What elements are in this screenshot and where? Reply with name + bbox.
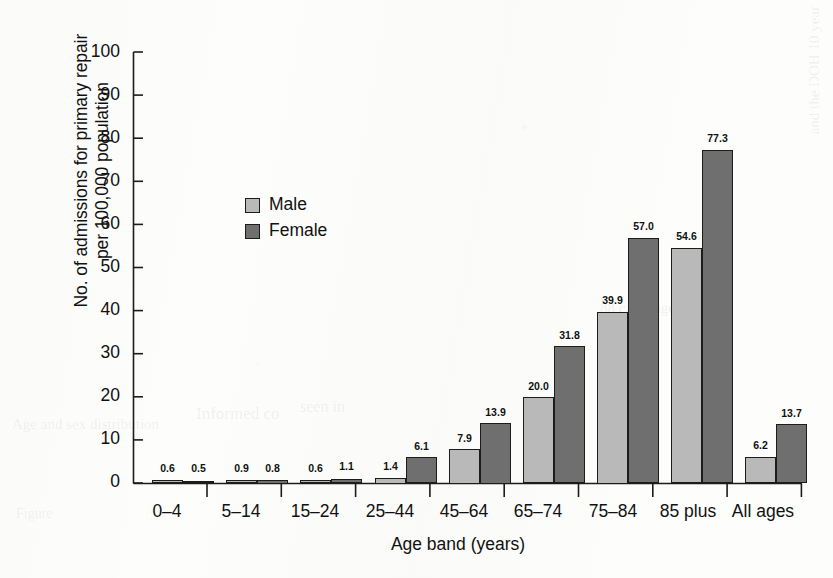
bar-value-male-all-ages: 6.2 [733,440,788,451]
legend-item-male: Male [245,192,327,218]
bar-value-male-75-84: 39.9 [585,295,640,306]
bar-value-female-45-64: 13.9 [468,407,523,418]
x-tick-label-all-ages: All ages [724,503,802,521]
y-tick-label: 100 [62,43,120,61]
bar-value-female-85-plus: 77.3 [690,133,745,144]
bar-male-85-plus [671,248,702,484]
bar-value-female-65-74: 31.8 [542,330,597,341]
bar-chart: No. of admissions for primary repair per… [0,0,833,578]
y-tick-label: 50 [62,258,120,276]
bar-value-male-45-64: 7.9 [437,433,492,444]
y-tick-label: 70 [62,172,120,190]
scanned-chart-page: and the DOH 10 year 88 cases age Informe… [0,0,833,578]
x-axis-title: Age band (years) [333,534,583,555]
y-tick-label: 0 [62,473,120,491]
legend-swatch-female-icon [245,224,260,239]
y-tick-label: 40 [62,301,120,319]
x-tick-label-15-24: 15–24 [278,503,352,521]
bar-female-75-84 [628,238,659,484]
bar-female-65-74 [554,346,585,483]
y-tick-label: 80 [62,129,120,147]
bar-female-all-ages [776,424,807,483]
legend-swatch-male-icon [245,198,260,213]
bar-female-0-4 [183,481,214,483]
bar-female-15-24 [331,479,362,484]
x-tick-label-0-4: 0–4 [130,503,204,521]
bar-male-0-4 [152,480,183,483]
x-tick-label-45-64: 45–64 [427,503,501,521]
y-tick-label: 60 [62,215,120,233]
y-tick-label: 90 [62,86,120,104]
bar-male-5-14 [226,480,257,484]
legend-label-female: Female [269,222,327,240]
bar-male-45-64 [449,449,480,484]
bar-male-25-44 [375,478,406,484]
legend-item-female: Female [245,218,327,244]
bar-female-5-14 [257,480,288,484]
legend-label-male: Male [269,196,307,214]
x-tick-label-65-74: 65–74 [501,503,575,521]
y-tick-label: 10 [62,430,120,448]
x-tick-label-25-44: 25–44 [353,503,427,521]
bar-female-85-plus [702,150,733,484]
x-tick-label-85-plus: 85 plus [650,503,726,521]
bar-value-male-85-plus: 54.6 [659,231,714,242]
bar-value-male-65-74: 20.0 [511,381,566,392]
x-tick-label-5-14: 5–14 [204,503,278,521]
y-tick-label: 30 [62,344,120,362]
bar-male-all-ages [745,457,776,484]
bar-value-male-25-44: 1.4 [363,461,418,472]
bar-male-75-84 [597,312,628,484]
chart-legend: Male Female [245,192,327,244]
bar-male-65-74 [523,397,554,483]
x-tick-label-75-84: 75–84 [576,503,650,521]
bar-value-female-75-84: 57.0 [616,221,671,232]
bar-value-female-all-ages: 13.7 [764,408,819,419]
bar-male-15-24 [300,480,331,483]
y-tick-label: 20 [62,387,120,405]
